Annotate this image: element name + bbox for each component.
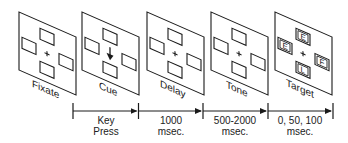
interval-label: 500-2000 <box>214 115 257 126</box>
interval-label: 1000 <box>160 115 183 126</box>
interval-label: msec. <box>222 126 249 137</box>
interval-label: Key <box>97 115 114 126</box>
interval-label: 0, 50, 100 <box>278 115 323 126</box>
panel-tone: Tone <box>211 12 268 108</box>
timeline: Key Press 1000 msec. 500-2000 msec. 0, 5… <box>73 103 333 137</box>
panel-delay: Delay <box>147 12 204 108</box>
interval-label: msec. <box>158 126 185 137</box>
panel-target: E E F L Target <box>275 12 332 108</box>
panel-cue: Cue <box>82 12 139 108</box>
interval-label: Press <box>93 126 119 137</box>
interval-label: msec. <box>287 126 314 137</box>
task-sequence-diagram: Fixate Cue Delay <box>0 0 348 143</box>
panel-fixate: Fixate <box>19 12 76 108</box>
